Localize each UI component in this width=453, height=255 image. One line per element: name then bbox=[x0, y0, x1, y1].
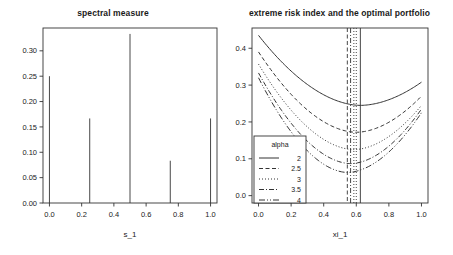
legend-label: 2.5 bbox=[291, 165, 301, 172]
y-tick-label: 0.1 bbox=[236, 154, 246, 163]
figure-canvas: spectral measure 0.000.050.100.150.200.2… bbox=[0, 0, 453, 255]
x-tick-label: 0.8 bbox=[384, 210, 394, 219]
y-tick-label: 0.05 bbox=[22, 173, 37, 182]
x-tick-label: 0.2 bbox=[286, 210, 296, 219]
y-tick-label: 0.25 bbox=[22, 72, 37, 81]
y-tick-label: 0.00 bbox=[22, 199, 37, 208]
panel-spectral-measure: spectral measure 0.000.050.100.150.200.2… bbox=[0, 0, 226, 255]
y-tick-label: 0.3 bbox=[236, 81, 246, 90]
spectral-measure-plot: 0.000.050.100.150.200.250.300.00.20.40.6… bbox=[0, 0, 226, 255]
y-tick-label: 0.20 bbox=[22, 97, 37, 106]
y-tick-label: 0.30 bbox=[22, 46, 37, 55]
y-tick-label: 0.0 bbox=[236, 191, 246, 200]
y-tick-label: 0.10 bbox=[22, 148, 37, 157]
legend-label: 3 bbox=[297, 176, 301, 183]
y-tick-label: 0.4 bbox=[236, 44, 246, 53]
x-axis-title: xi_1 bbox=[333, 230, 348, 239]
x-tick-label: 0.6 bbox=[141, 210, 151, 219]
x-tick-label: 0.8 bbox=[173, 210, 183, 219]
x-tick-label: 0.4 bbox=[109, 210, 119, 219]
x-tick-label: 0.2 bbox=[76, 210, 86, 219]
x-tick-label: 1.0 bbox=[205, 210, 215, 219]
legend-label: 3.5 bbox=[291, 186, 301, 193]
legend-label: 2 bbox=[297, 155, 301, 162]
risk-index-plot: 0.00.10.20.30.40.00.20.40.60.81.0xi_1alp… bbox=[226, 0, 453, 255]
risk-curve bbox=[259, 52, 422, 132]
y-tick-label: 0.15 bbox=[22, 123, 37, 132]
x-axis-title: s_1 bbox=[124, 230, 137, 239]
x-tick-label: 0.0 bbox=[253, 210, 263, 219]
x-tick-label: 0.4 bbox=[318, 210, 328, 219]
panel-risk-index: extreme risk index and the optimal portf… bbox=[226, 0, 453, 255]
x-tick-label: 1.0 bbox=[416, 210, 426, 219]
risk-curve bbox=[259, 35, 422, 105]
legend-title: alpha bbox=[271, 141, 288, 149]
x-tick-label: 0.6 bbox=[351, 210, 361, 219]
y-tick-label: 0.2 bbox=[236, 118, 246, 127]
x-tick-label: 0.0 bbox=[44, 210, 54, 219]
legend-label: 4 bbox=[297, 197, 301, 204]
